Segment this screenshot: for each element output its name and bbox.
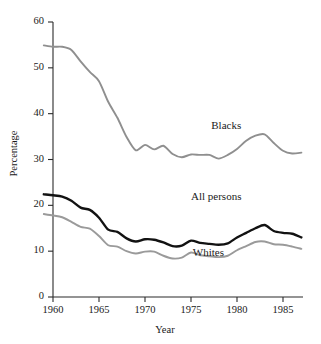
y-axis-tick-label: 40 (18, 107, 44, 118)
y-axis-tick-label: 60 (18, 15, 44, 26)
x-axis-tick-label: 1985 (263, 304, 303, 315)
x-axis-tick-label: 1965 (79, 304, 119, 315)
x-axis-title: Year (140, 324, 190, 335)
y-axis-title: Percentage (8, 119, 19, 189)
chart-axes (48, 22, 303, 302)
chart-series-lines (44, 45, 302, 258)
series-label-blacks: Blacks (211, 119, 241, 131)
chart-plot-area (0, 0, 321, 344)
x-axis-tick-label: 1960 (33, 304, 73, 315)
y-axis-tick-label: 30 (18, 153, 44, 164)
poverty-rate-line-chart: 0102030405060196019651970197519801985 Pe… (0, 0, 321, 344)
y-axis-tick-label: 20 (18, 198, 44, 209)
y-axis-tick-label: 50 (18, 61, 44, 72)
series-label-all-persons: All persons (191, 190, 241, 202)
y-axis-tick-label: 0 (18, 290, 44, 301)
y-axis-tick-label: 10 (18, 244, 44, 255)
x-axis-tick-label: 1975 (171, 304, 211, 315)
x-axis-tick-label: 1970 (125, 304, 165, 315)
series-label-whites: Whites (193, 246, 224, 258)
x-axis-tick-label: 1980 (217, 304, 257, 315)
